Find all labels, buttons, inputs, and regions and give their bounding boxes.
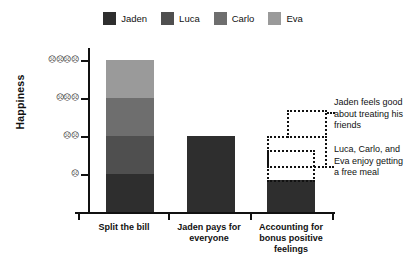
annotation-jaden-feels-good: Jaden feels good about treating his frie… <box>334 97 406 132</box>
bar-split-the-bill-segment-luca[interactable] <box>106 136 154 174</box>
x-axis-line <box>75 212 335 214</box>
annotation-others-free-meal: Luca, Carlo, and Eva enjoy getting a fre… <box>334 144 406 179</box>
leader-line-others-note <box>322 166 334 168</box>
y-tick-mark-2 <box>81 136 88 138</box>
bar-split-the-bill-segment-carlo[interactable] <box>106 98 154 136</box>
x-tick-mark-2 <box>250 213 252 220</box>
y-tick-mark-1 <box>81 174 88 176</box>
happiness-bar-chart: Jaden Luca Carlo Eva Happiness ☹☹☹☹ ☹☹☹ <box>0 0 406 269</box>
x-tick-mark-1 <box>168 213 170 220</box>
bonus-outline-jaden-feelgood[interactable] <box>287 110 327 138</box>
x-axis-label-split-the-bill: Split the bill <box>82 222 166 233</box>
y-axis-line <box>88 48 90 213</box>
y-tick-label-2: ☹☹ <box>63 132 78 140</box>
bar-jaden-pays-segment-jaden[interactable] <box>187 136 235 212</box>
x-tick-mark-left <box>78 213 80 220</box>
x-tick-mark-right <box>332 213 334 220</box>
bar-accounting-segment-jaden[interactable] <box>267 180 315 212</box>
y-axis-title: Happiness <box>14 62 26 142</box>
x-axis-label-jaden-pays: Jaden pays for everyone <box>170 222 248 244</box>
bar-split-the-bill-segment-jaden[interactable] <box>106 174 154 212</box>
bonus-outline-others-upper[interactable] <box>267 136 327 168</box>
bar-split-the-bill-segment-eva[interactable] <box>106 60 154 98</box>
plot-area: Happiness ☹☹☹☹ ☹☹☹ ☹☹ ☹ <box>0 0 406 269</box>
y-tick-label-3: ☹☹☹ <box>56 94 79 102</box>
y-tick-label-1: ☹ <box>71 170 79 178</box>
x-axis-label-accounting: Accounting for bonus positive feelings <box>252 222 330 255</box>
y-tick-mark-3 <box>81 98 88 100</box>
y-tick-mark-4 <box>81 60 88 62</box>
y-tick-label-4: ☹☹☹☹ <box>48 56 78 64</box>
